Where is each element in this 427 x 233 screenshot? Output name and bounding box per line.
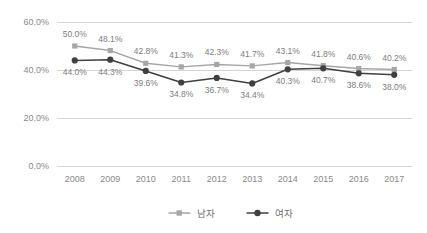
data-label: 40.3% — [276, 76, 301, 86]
data-label: 38.6% — [347, 80, 372, 90]
marker-square — [250, 63, 255, 68]
data-label: 48.1% — [98, 34, 123, 44]
marker-circle — [214, 75, 220, 81]
x-tick-label: 2009 — [100, 174, 120, 184]
chart-legend: 남자여자 — [169, 208, 293, 219]
line-chart: 0.0%20.0%40.0%60.0% 20082009201020112012… — [0, 0, 427, 233]
x-tick-label: 2011 — [172, 174, 191, 184]
data-label: 40.2% — [382, 53, 407, 63]
y-tick-label: 0.0% — [28, 161, 49, 171]
data-label: 43.1% — [276, 46, 301, 56]
marker-circle — [143, 68, 149, 74]
legend-marker-square — [177, 210, 182, 215]
x-tick-label: 2015 — [313, 174, 333, 184]
marker-square — [392, 67, 397, 72]
data-label: 42.8% — [134, 46, 159, 56]
data-label: 34.8% — [169, 89, 194, 99]
data-label: 42.3% — [205, 47, 230, 57]
data-label: 50.0% — [63, 29, 88, 39]
marker-square — [143, 61, 148, 66]
data-label: 36.7% — [205, 85, 230, 95]
x-tick-label: 2008 — [65, 174, 85, 184]
marker-square — [108, 48, 113, 53]
y-axis-tick-labels: 0.0%20.0%40.0%60.0% — [23, 17, 49, 171]
data-label: 38.0% — [382, 82, 407, 92]
x-tick-label: 2010 — [136, 174, 156, 184]
x-tick-label: 2013 — [242, 174, 262, 184]
data-label: 44.3% — [98, 67, 123, 77]
x-tick-label: 2014 — [278, 174, 298, 184]
data-label: 40.6% — [347, 52, 372, 62]
chart-container: 0.0%20.0%40.0%60.0% 20082009201020112012… — [0, 0, 427, 233]
marker-circle — [72, 57, 78, 63]
x-tick-label: 2016 — [349, 174, 369, 184]
marker-square — [72, 43, 77, 48]
data-label: 41.7% — [240, 49, 265, 59]
marker-circle — [285, 66, 291, 72]
legend-item-male: 남자 — [169, 208, 215, 219]
data-label: 34.4% — [240, 90, 265, 100]
legend-marker-circle — [254, 210, 260, 216]
x-axis-tick-labels: 2008200920102011201220132014201520162017 — [65, 174, 405, 184]
marker-circle — [107, 57, 113, 63]
marker-square — [179, 64, 184, 69]
marker-square — [214, 62, 219, 67]
marker-circle — [178, 79, 184, 85]
marker-circle — [249, 80, 255, 86]
legend-label: 남자 — [197, 208, 215, 219]
data-label: 41.3% — [169, 50, 194, 60]
data-label: 39.6% — [134, 78, 159, 88]
y-tick-label: 40.0% — [23, 65, 49, 75]
data-label: 44.0% — [63, 67, 88, 77]
y-tick-label: 60.0% — [23, 17, 49, 27]
data-label: 40.7% — [311, 75, 336, 85]
marker-circle — [391, 72, 397, 78]
x-tick-label: 2012 — [207, 174, 227, 184]
marker-circle — [356, 70, 362, 76]
legend-label: 여자 — [275, 208, 293, 219]
y-tick-label: 20.0% — [23, 113, 49, 123]
legend-item-female: 여자 — [247, 208, 293, 219]
data-label: 41.8% — [311, 49, 336, 59]
marker-circle — [320, 65, 326, 71]
gridlines — [57, 22, 412, 166]
marker-square — [285, 60, 290, 65]
x-tick-label: 2017 — [384, 174, 404, 184]
